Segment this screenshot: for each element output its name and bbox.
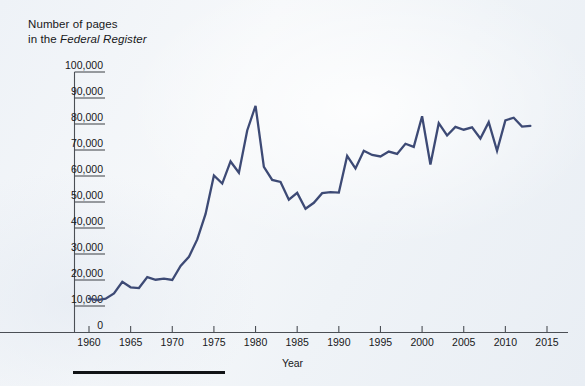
x-axis-tick-label: 1965 bbox=[119, 336, 143, 348]
y-axis-tick-label: 40,000 bbox=[71, 215, 103, 227]
x-axis-tick-label: 1995 bbox=[369, 336, 393, 348]
x-axis-tick-label: 2000 bbox=[410, 336, 434, 348]
y-axis-tick-label: 100,000 bbox=[65, 59, 103, 71]
x-axis-tick-label: 1960 bbox=[77, 336, 101, 348]
x-axis-tick-label: 1970 bbox=[161, 336, 185, 348]
chart-plot-area: 100,00090,00080,00070,00060,00050,00040,… bbox=[0, 0, 585, 386]
y-axis-tick-label: 20,000 bbox=[71, 267, 103, 279]
data-series-line bbox=[89, 106, 530, 300]
y-axis-tick-labels: 100,00090,00080,00070,00060,00050,00040,… bbox=[65, 59, 103, 331]
footer-rule bbox=[73, 371, 225, 374]
x-axis-tick-label: 1980 bbox=[244, 336, 268, 348]
x-axis-tick-label: 1975 bbox=[202, 336, 226, 348]
x-axis-tick-label: 2015 bbox=[535, 336, 559, 348]
chart-figure: Number of pages in the Federal Register … bbox=[0, 0, 585, 386]
x-axis-tick-label: 2010 bbox=[494, 336, 518, 348]
y-axis-tick-label: 70,000 bbox=[71, 137, 103, 149]
y-axis-tick-label: 0 bbox=[97, 319, 103, 331]
x-axis-caption: Year bbox=[0, 357, 585, 369]
y-axis-tick-label: 50,000 bbox=[71, 189, 103, 201]
x-axis-tick-labels: 1960196519701975198019851990199520002005… bbox=[77, 336, 559, 348]
x-axis-tick-label: 1990 bbox=[327, 336, 351, 348]
x-axis-tick-marks bbox=[89, 326, 547, 333]
y-axis-tick-label: 80,000 bbox=[71, 111, 103, 123]
y-axis-tick-label: 60,000 bbox=[71, 163, 103, 175]
x-axis-tick-label: 1985 bbox=[286, 336, 310, 348]
x-axis-tick-label: 2005 bbox=[452, 336, 476, 348]
y-axis-tick-label: 90,000 bbox=[71, 85, 103, 97]
y-axis-tick-label: 30,000 bbox=[71, 241, 103, 253]
y-axis-tick-label: 10,000 bbox=[71, 293, 103, 305]
